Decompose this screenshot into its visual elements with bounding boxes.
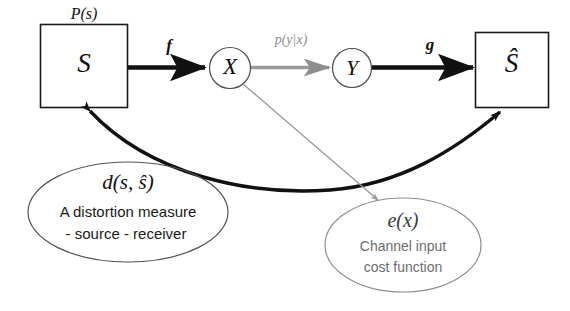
estimate-box [476, 33, 549, 108]
cost-link-line [243, 84, 378, 200]
channel-input-circle [210, 48, 251, 89]
diagram-canvas: S X Y Ŝ P(s) f p(y|x) g d(s, ŝ) A distor… [0, 0, 570, 311]
source-box [41, 25, 128, 108]
cost-ellipse [325, 198, 481, 292]
diagram-vector-layer [0, 0, 570, 311]
channel-output-circle [333, 49, 372, 88]
distortion-curve-arrow [90, 111, 500, 191]
